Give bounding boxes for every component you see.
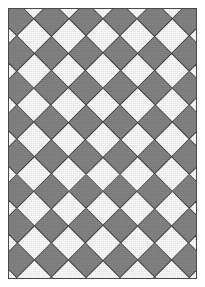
diamond-checkerboard bbox=[8, 8, 197, 279]
figure-container bbox=[0, 0, 205, 287]
pattern-panel bbox=[8, 8, 197, 279]
